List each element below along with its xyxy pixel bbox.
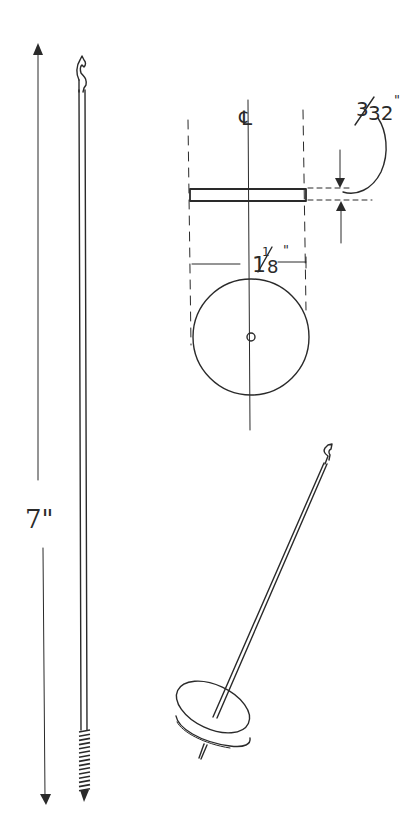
centerline-symbol: ℄: [238, 106, 252, 130]
screw-thread: [79, 730, 90, 791]
thread-coil: [79, 772, 90, 774]
arrow-up-icon: [33, 43, 43, 55]
thickness-label: 3 32 ": [355, 92, 400, 125]
thread-coil: [79, 780, 90, 782]
centerline: [248, 100, 250, 430]
whorl-hole: [247, 333, 255, 341]
length-dimension: 7": [25, 43, 54, 805]
shaft-line-right: [85, 90, 87, 730]
thread-coil: [79, 755, 90, 757]
thread-coil: [79, 747, 90, 749]
whorl-edge-view: ℄ 3 32 ": [188, 92, 400, 430]
perspective-hook-icon: [324, 444, 332, 464]
spindle-perspective: [168, 444, 332, 759]
hook-icon: [77, 56, 86, 92]
svg-text:8: 8: [267, 256, 278, 277]
arrow-down-icon: [40, 794, 51, 805]
svg-text:": ": [283, 242, 289, 257]
svg-text:32: 32: [368, 101, 393, 125]
length-label: 7": [25, 504, 54, 534]
perspective-shaft-left: [213, 463, 324, 717]
whorl-plan-view: [193, 279, 309, 395]
thread-coil: [79, 768, 90, 770]
spindle-side-view: [77, 56, 90, 802]
thread-coil: [79, 743, 90, 745]
arrow-up-icon: [336, 201, 346, 211]
leader-line: [343, 118, 386, 193]
diameter-label: 1 1 8 ": [252, 242, 289, 277]
thread-coil: [79, 785, 90, 787]
whorl-edge-rect: [190, 189, 306, 201]
arrow-down-icon: [335, 178, 345, 188]
whorl-circle: [193, 279, 309, 395]
thread-coil: [79, 764, 90, 766]
length-dimension-line-lower: [43, 548, 45, 798]
thread-coil: [79, 776, 90, 778]
spindle-drawing: 7" ℄ 3 32 ": [0, 0, 419, 820]
thread-coil: [79, 734, 90, 736]
screw-tip-icon: [80, 790, 89, 802]
shaft-line-left: [79, 90, 81, 730]
thread-coil: [79, 738, 90, 740]
thread-coil: [79, 751, 90, 753]
projection-line-right: [303, 110, 306, 310]
svg-text:": ": [394, 92, 400, 107]
svg-text:3: 3: [356, 97, 369, 121]
perspective-whorl-top: [168, 671, 257, 744]
thread-coil: [79, 759, 90, 761]
projection-line-left: [188, 120, 191, 345]
